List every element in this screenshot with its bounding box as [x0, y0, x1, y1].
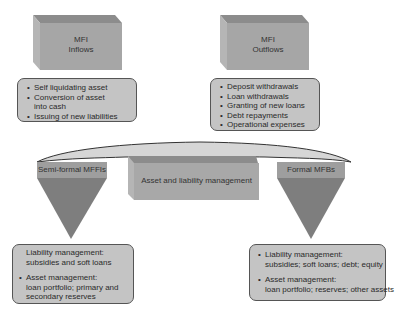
outflows-item: •Loan withdrawals [218, 92, 315, 102]
outflows-item: •Operational expenses [218, 120, 315, 130]
right-funnel-label: Formal MFBs [277, 165, 345, 175]
left-liability-title: Liability management: [26, 248, 129, 258]
outflows-list-card: •Deposit withdrawals •Loan withdrawals •… [210, 78, 320, 131]
inflows-box-line1: MFI [40, 35, 122, 45]
inflows-list-card: •Self liquidating asset •Conversion of a… [17, 78, 137, 122]
inflows-item: •Issuing of new liabilities [25, 112, 132, 122]
outflows-item: •Deposit withdrawals [218, 82, 315, 92]
right-liability-item: • Liability management: subsidies; soft … [256, 250, 381, 269]
outflows-box-line1: MFI [227, 35, 309, 45]
inflows-item: •Conversion of asset into cash [25, 93, 114, 112]
inflows-box-line2: Inflows [40, 45, 122, 55]
right-management-card: • Liability management: subsidies; soft … [249, 244, 386, 301]
outflows-item: •Debt repayments [218, 111, 315, 121]
outflows-box-label: MFI Outflows [227, 35, 309, 55]
right-asset-item: • Asset management: loan portfolio; rese… [256, 275, 381, 294]
left-liability-detail: subsidies and soft loans [26, 258, 129, 268]
left-management-card: Liability management: subsidies and soft… [12, 244, 134, 304]
inflows-box-label: MFI Inflows [40, 35, 122, 55]
center-box-label: Asset and liability management [134, 176, 259, 186]
inflows-item: •Self liquidating asset [25, 83, 132, 93]
outflows-box-line2: Outflows [227, 45, 309, 55]
left-funnel-label: Semi-formal MFFIs [37, 165, 107, 175]
left-asset-detail-2: secondary reserves [26, 292, 129, 302]
outflows-item: •Granting of new loans [218, 101, 315, 111]
left-asset-detail-1: loan portfolio; primary and [26, 283, 129, 293]
left-asset-item: • Asset management: [17, 273, 129, 283]
